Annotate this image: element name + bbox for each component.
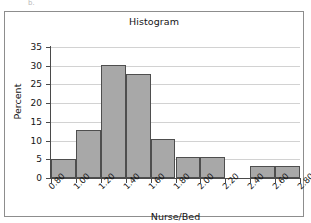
histogram-figure: b. Histogram 05101520253035 Percent 0.80… (0, 0, 311, 223)
histogram-bar (151, 139, 176, 178)
y-axis-title: Percent (12, 67, 23, 137)
plot-area (51, 47, 300, 178)
y-axis-tick-label: 10 (14, 137, 42, 146)
x-axis-title: Nurse/Bed (51, 211, 300, 222)
histogram-bar (126, 74, 151, 178)
y-axis-tick-label: 35 (14, 43, 42, 52)
chart-frame: Histogram 05101520253035 Percent 0.801.0… (4, 11, 304, 217)
gridline (51, 84, 300, 85)
y-axis-tick-label: 0 (14, 174, 42, 183)
figure-part-label: b. (28, 0, 35, 7)
histogram-bar (76, 130, 101, 178)
gridline (51, 47, 300, 48)
gridline (51, 103, 300, 104)
chart-title: Histogram (5, 16, 303, 27)
gridline (51, 66, 300, 67)
histogram-bar (101, 65, 126, 178)
gridline (51, 122, 300, 123)
y-axis-tick-label: 5 (14, 155, 42, 164)
